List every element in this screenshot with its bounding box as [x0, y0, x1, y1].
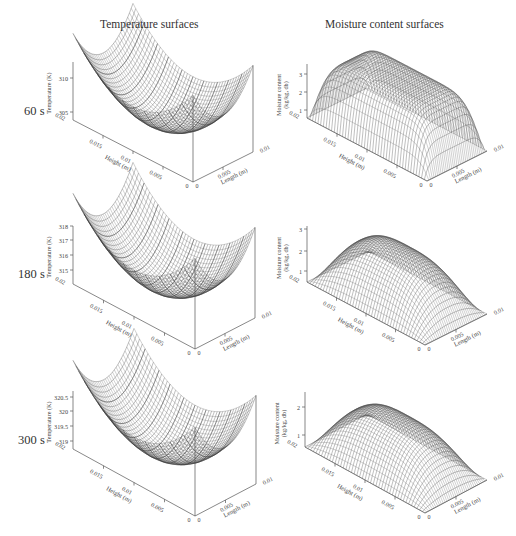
x-tick-label: 0.005	[381, 332, 396, 344]
x-tick-label: 0.005	[150, 502, 165, 514]
x-tick-label: 0.02	[286, 439, 298, 449]
surface-plot-4: 123Moisture content(kg/kg, db)0.020.0150…	[275, 226, 505, 353]
surface-plot-2: 123Moisture content(kg/kg, db)0.020.0150…	[275, 51, 505, 188]
z-tick-label: 317	[59, 237, 68, 244]
y-tick-label: 0	[428, 346, 431, 352]
z-axis-label: (kg/kg, db)	[282, 81, 290, 109]
z-axis-label: Moisture content	[275, 237, 282, 279]
x-tick-label: 0.015	[89, 303, 104, 315]
z-tick-label: 318	[59, 223, 68, 230]
y-tick-label: 0.01	[259, 144, 271, 154]
surface-mesh	[307, 236, 487, 346]
surface-mesh	[73, 162, 255, 298]
surface-plots-figure: 305310Temperature (K)0.020.0150.010.0050…	[0, 0, 516, 536]
y-tick-label: 0	[196, 183, 199, 189]
z-axis-label: (kg/kg, db)	[282, 244, 290, 272]
x-tick-label: 0	[186, 183, 189, 189]
y-tick-label: 0.01	[493, 306, 505, 316]
x-tick-label: 0	[188, 517, 191, 523]
z-axis-label: Temperature (K)	[45, 401, 53, 442]
y-tick-label: 0	[430, 182, 433, 188]
x-tick-label: 0.02	[288, 274, 300, 284]
z-tick-label: 2	[299, 248, 302, 255]
z-tick-label: 2	[299, 89, 302, 96]
surface-mesh	[305, 404, 487, 513]
y-tick-label: 0	[198, 517, 201, 523]
x-tick-label: 0.015	[322, 300, 337, 312]
x-tick-label: 0.005	[150, 335, 165, 347]
surface-plot-5: 319319.5320320.5Temperature (K)0.020.015…	[45, 328, 274, 523]
x-tick-label: 0.015	[89, 468, 104, 480]
z-tick-label: 1	[299, 268, 302, 275]
y-tick-label: 0	[198, 350, 201, 356]
z-tick-label: 3	[299, 226, 302, 233]
z-tick-label: 1	[297, 432, 300, 439]
x-tick-label: 0.02	[54, 276, 66, 286]
y-axis-label: Length (m)	[221, 332, 250, 352]
x-tick-label: 0.005	[381, 499, 396, 511]
x-tick-label: 0.015	[89, 138, 104, 150]
z-tick-label: 320	[59, 408, 68, 415]
z-tick-label: 315	[59, 267, 68, 274]
z-tick-label: 316	[59, 252, 68, 259]
x-tick-label: 0.005	[149, 169, 164, 181]
z-axis-label: Moisture content	[273, 402, 280, 444]
y-tick-label: 0.01	[261, 310, 273, 320]
y-axis-label: Length (m)	[222, 499, 251, 520]
y-axis-label: Length (m)	[219, 166, 248, 186]
axes	[73, 391, 256, 516]
z-axis-label: Moisture content	[275, 74, 282, 116]
y-axis-label: Length (m)	[453, 495, 482, 516]
z-tick-label: 319.5	[54, 423, 68, 430]
y-axis-label: Length (m)	[453, 329, 482, 349]
surface-mesh	[307, 51, 487, 181]
z-tick-label: 320.5	[54, 394, 68, 401]
y-tick-label: 0.01	[262, 476, 274, 486]
z-tick-label: 310	[59, 75, 68, 82]
z-tick-label: 2	[297, 404, 300, 411]
y-tick-label: 0.01	[493, 143, 505, 153]
surface-plot-6: 12Moisture content(kg/kg, db)0.020.0150.…	[273, 392, 505, 520]
x-tick-label: 0.005	[383, 168, 398, 180]
x-tick-label: 0	[420, 182, 423, 188]
surface-plot-3: 315316317318Temperature (K)0.020.0150.01…	[45, 162, 273, 356]
surface-mesh	[73, 3, 253, 133]
y-tick-label: 0.01	[493, 472, 505, 482]
x-tick-label: 0	[418, 346, 421, 352]
y-tick-label: 0	[428, 514, 431, 520]
z-tick-label: 1	[299, 107, 302, 114]
x-tick-label: 0	[418, 514, 421, 520]
y-axis-label: Length (m)	[453, 165, 482, 185]
z-axis-label: (kg/kg, db)	[280, 410, 288, 438]
z-axis-label: Temperature (K)	[45, 72, 53, 113]
x-tick-label: 0.015	[321, 466, 336, 478]
x-tick-label: 0	[188, 350, 191, 356]
surface-plot-1: 305310Temperature (K)0.020.0150.010.0050…	[45, 3, 271, 189]
x-tick-label: 0.015	[323, 136, 338, 148]
z-axis-label: Temperature (K)	[45, 236, 53, 277]
z-tick-label: 3	[299, 71, 302, 78]
